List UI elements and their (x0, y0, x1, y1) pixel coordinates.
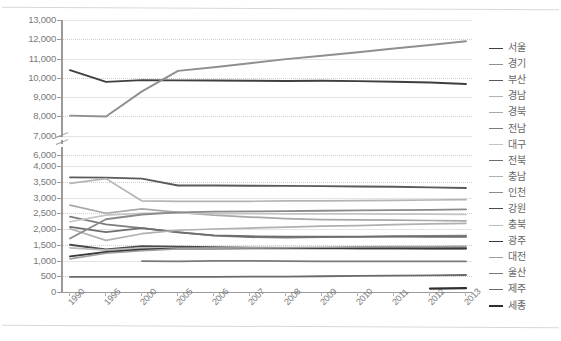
series-line-서울 (70, 70, 466, 84)
series-line-부산 (70, 177, 466, 188)
series-line-제주 (70, 275, 466, 277)
legend-label: 부산 (508, 74, 526, 86)
legend-swatch-icon (489, 144, 503, 145)
legend-label: 경남 (508, 90, 526, 102)
legend-item-광주[interactable]: 광주 (489, 233, 559, 249)
legend-swatch-icon (489, 208, 503, 209)
legend-label: 경북 (508, 106, 526, 118)
legend-swatch-icon (489, 80, 503, 81)
legend-item-경남[interactable]: 경남 (489, 88, 559, 104)
legend-label: 세종 (508, 300, 526, 312)
legend-item-인천[interactable]: 인천 (489, 185, 559, 201)
legend-swatch-icon (489, 241, 503, 242)
legend-item-제주[interactable]: 제주 (489, 281, 559, 297)
legend-swatch-icon (489, 192, 503, 193)
legend-swatch-icon (489, 64, 503, 65)
series-line-울산 (142, 261, 466, 262)
legend-label: 전북 (508, 155, 526, 167)
legend-label: 광주 (508, 235, 526, 247)
legend-item-경북[interactable]: 경북 (489, 104, 559, 120)
series-lines (0, 0, 561, 341)
legend-swatch-icon (489, 225, 503, 226)
legend-label: 울산 (508, 267, 526, 279)
chart-legend: 서울경기부산경남경북전남대구전북충남인천강원충북광주대전울산제주세종 (489, 40, 559, 314)
legend-swatch-icon (489, 273, 503, 274)
legend-item-대전[interactable]: 대전 (489, 249, 559, 265)
legend-swatch-icon (489, 289, 503, 290)
legend-item-부산[interactable]: 부산 (489, 72, 559, 88)
legend-item-세종[interactable]: 세종 (489, 298, 559, 314)
legend-label: 충북 (508, 219, 526, 231)
legend-item-전북[interactable]: 전북 (489, 153, 559, 169)
legend-label: 대구 (508, 139, 526, 151)
legend-label: 제주 (508, 283, 526, 295)
legend-label: 인천 (508, 187, 526, 199)
chart-container: 6,0007,0008,0009,00010,00011,00012,00013… (0, 0, 561, 341)
legend-item-서울[interactable]: 서울 (489, 40, 559, 56)
legend-swatch-icon (489, 112, 503, 113)
legend-item-울산[interactable]: 울산 (489, 265, 559, 281)
legend-swatch-icon (489, 96, 503, 97)
legend-label: 충남 (508, 171, 526, 183)
legend-label: 경기 (508, 58, 526, 70)
series-line-경남 (70, 179, 466, 202)
legend-swatch-icon (489, 160, 503, 161)
legend-label: 서울 (508, 42, 526, 54)
legend-swatch-icon (489, 48, 503, 49)
legend-item-경기[interactable]: 경기 (489, 56, 559, 72)
legend-item-강원[interactable]: 강원 (489, 201, 559, 217)
legend-swatch-icon (489, 305, 503, 307)
legend-label: 강원 (508, 203, 526, 215)
legend-item-충북[interactable]: 충북 (489, 217, 559, 233)
legend-item-대구[interactable]: 대구 (489, 137, 559, 153)
legend-swatch-icon (489, 257, 503, 258)
legend-swatch-icon (489, 128, 503, 129)
legend-label: 전남 (508, 123, 526, 135)
series-line-경기 (70, 41, 466, 116)
legend-item-전남[interactable]: 전남 (489, 120, 559, 136)
legend-swatch-icon (489, 176, 503, 177)
legend-item-충남[interactable]: 충남 (489, 169, 559, 185)
legend-label: 대전 (508, 251, 526, 263)
